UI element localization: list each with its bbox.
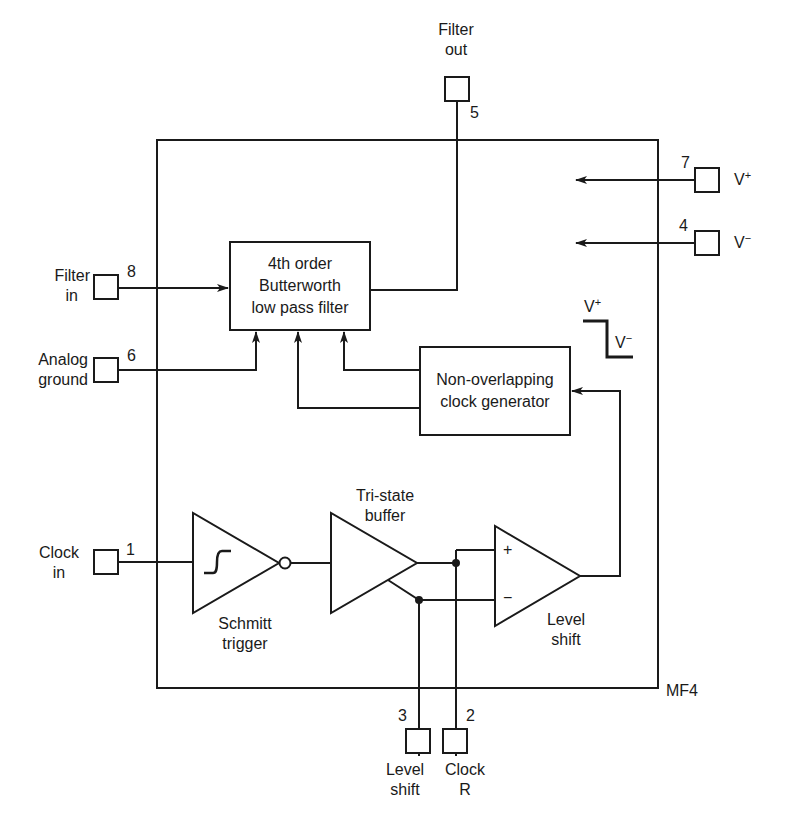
butterworth-filter-text: 4th order Butterworth low pass filter	[230, 242, 370, 330]
pin-2-pad	[443, 729, 467, 753]
pin-8-number: 8	[127, 263, 136, 281]
tristate-line2: buffer	[340, 506, 430, 526]
pin-1-number: 1	[126, 541, 135, 559]
level-shift-label: Level shift	[536, 610, 596, 650]
pin-2-name-line1: Clock	[440, 760, 490, 780]
filter-line3: low pass filter	[252, 297, 349, 319]
comparator-minus: −	[503, 589, 512, 607]
pin-4-pad	[695, 231, 719, 255]
chip-label: MF4	[666, 682, 698, 700]
pin-8-name-line2: in	[30, 286, 90, 306]
schmitt-trigger-label: Schmitt trigger	[200, 614, 290, 654]
pin-2-number: 2	[466, 707, 475, 725]
waveform-low-sup: −	[626, 332, 632, 344]
tristate-line1: Tri-state	[340, 486, 430, 506]
pin-6-pad	[94, 358, 118, 382]
pin-7-number: 7	[681, 154, 690, 172]
chip-outline	[157, 140, 658, 688]
pin-8-name-line1: Filter	[30, 266, 90, 286]
waveform-high-sup: +	[595, 296, 601, 308]
pin-1-pad	[94, 550, 118, 574]
filter-line2: Butterworth	[259, 275, 341, 297]
schmitt-line1: Schmitt	[200, 614, 290, 634]
schmitt-line2: trigger	[200, 634, 290, 654]
clockgen-line1: Non-overlapping	[436, 369, 553, 391]
pin-7-label: V+	[734, 171, 751, 189]
levelshift-line1: Level	[536, 610, 596, 630]
pin-6-label: Analog ground	[20, 350, 88, 390]
pin-5-name-line1: Filter	[426, 20, 486, 40]
pin-4-label: V−	[734, 234, 751, 252]
tristate-buffer-symbol	[331, 513, 417, 613]
pin-6-name-line1: Analog	[20, 350, 88, 370]
pin-2-label: Clock R	[440, 760, 490, 800]
waveform-high-label: V+	[584, 298, 601, 316]
pin-3-label: Level shift	[380, 760, 430, 800]
pin-5-pad	[445, 77, 469, 101]
pin-5-label: Filter out	[426, 20, 486, 60]
pin-5-number: 5	[470, 104, 479, 122]
pin-3-name-line2: shift	[380, 780, 430, 800]
pin-6-name-line2: ground	[20, 370, 88, 390]
waveform-low-label: V−	[615, 334, 632, 352]
levelshift-line2: shift	[536, 630, 596, 650]
pin-7-pad	[695, 168, 719, 192]
pin-3-pad	[406, 729, 430, 753]
pin-3-number: 3	[398, 707, 407, 725]
waveform-high: V	[584, 298, 595, 315]
waveform-low: V	[615, 334, 626, 351]
clockgen-line2: clock generator	[440, 391, 549, 413]
comparator-plus: +	[503, 541, 512, 559]
tristate-buffer-label: Tri-state buffer	[340, 486, 430, 526]
clock-generator-text: Non-overlapping clock generator	[420, 347, 570, 435]
filter-line1: 4th order	[268, 253, 332, 275]
pin-7-name: V	[734, 171, 745, 188]
pin-2-name-line2: R	[440, 780, 490, 800]
pin-4-name: V	[734, 234, 745, 251]
pin-1-name-line2: in	[30, 563, 88, 583]
pin-8-label: Filter in	[30, 266, 90, 306]
pin-7-sup: +	[745, 169, 751, 181]
pin-6-number: 6	[127, 347, 136, 365]
pin-1-label: Clock in	[30, 543, 88, 583]
pin-4-sup: −	[745, 232, 751, 244]
pin-1-name-line1: Clock	[30, 543, 88, 563]
pin-8-pad	[94, 275, 118, 299]
pin-3-name-line1: Level	[380, 760, 430, 780]
pin-5-name-line2: out	[426, 40, 486, 60]
schmitt-trigger-symbol	[193, 513, 279, 613]
pin-4-number: 4	[679, 217, 688, 235]
